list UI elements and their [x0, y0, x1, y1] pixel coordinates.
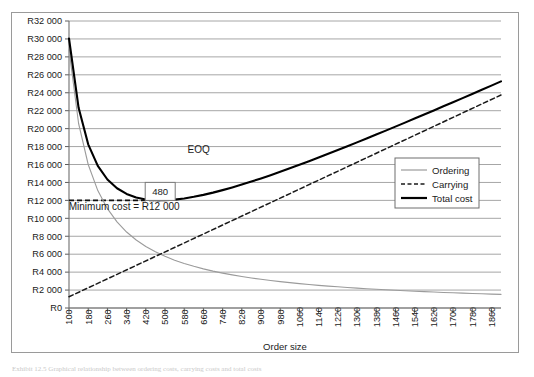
x-tick-label: 1300: [352, 307, 362, 327]
legend-label: Carrying: [432, 179, 468, 190]
x-tick-label: 340: [122, 309, 132, 324]
x-tick-label: 1700: [448, 307, 458, 327]
x-tick-label: 1060: [295, 307, 305, 327]
chart-canvas: R0R2 000R4 000R6 000R8 000R10 000R12 000…: [0, 0, 534, 377]
x-tick-label: 900: [256, 309, 266, 324]
y-tick-label: R16 000: [27, 160, 62, 170]
x-tick-label: 1780: [468, 307, 478, 327]
x-tick-label: 1220: [333, 307, 343, 327]
y-tick-label: R12 000: [27, 196, 62, 206]
y-tick-label: R4 000: [32, 267, 62, 277]
y-tick-label: R20 000: [27, 124, 62, 134]
y-tick-label: R6 000: [32, 249, 62, 259]
eoq-cost-figure: R0R2 000R4 000R6 000R8 000R10 000R12 000…: [0, 0, 534, 377]
minimum-cost-label: Minimum cost = R12 000: [69, 201, 180, 212]
x-tick-label: 1860: [487, 307, 497, 327]
x-tick-label: 500: [160, 309, 170, 324]
x-tick-label: 1140: [314, 307, 324, 327]
x-tick-labels-group: 1001802603404205005806607408209009801060…: [64, 307, 496, 327]
y-tick-label: R0: [50, 303, 62, 313]
y-tick-label: R24 000: [27, 88, 62, 98]
x-tick-label: 1540: [410, 307, 420, 327]
y-tick-label: R32 000: [27, 16, 62, 26]
chart-legend: OrderingCarryingTotal cost: [395, 158, 479, 208]
annotations-group: EOQ480Minimum cost = R12 000: [69, 144, 210, 212]
y-tick-label: R2 000: [32, 285, 62, 295]
x-tick-label: 100: [64, 309, 74, 324]
figure-caption: Exhibit 12.5 Graphical relationship betw…: [12, 364, 522, 374]
x-axis-title: Order size: [263, 341, 307, 352]
y-tick-label: R18 000: [27, 142, 62, 152]
x-tick-label: 260: [103, 309, 113, 324]
y-tick-labels-group: R0R2 000R4 000R6 000R8 000R10 000R12 000…: [27, 16, 62, 313]
y-tick-label: R14 000: [27, 178, 62, 188]
x-tick-label: 1620: [429, 307, 439, 327]
x-axis-title-group: Order size: [263, 341, 307, 352]
x-tick-label: 1460: [391, 307, 401, 327]
x-tick-label: 820: [237, 309, 247, 324]
y-tick-label: R30 000: [27, 34, 62, 44]
eoq-label: EOQ: [187, 144, 209, 155]
eoq-value-text: 480: [152, 186, 168, 197]
legend-label: Ordering: [432, 165, 469, 176]
y-tick-marks-group: [65, 21, 69, 308]
x-tick-label: 660: [199, 309, 209, 324]
y-tick-label: R10 000: [27, 214, 62, 224]
x-tick-label: 1380: [372, 307, 382, 327]
y-tick-label: R22 000: [27, 106, 62, 116]
x-tick-label: 180: [84, 309, 94, 324]
legend-label: Total cost: [432, 193, 473, 204]
y-tick-label: R26 000: [27, 70, 62, 80]
x-tick-label: 420: [141, 309, 151, 324]
x-tick-label: 980: [276, 309, 286, 324]
y-tick-label: R28 000: [27, 52, 62, 62]
x-tick-label: 580: [180, 309, 190, 324]
x-tick-label: 740: [218, 309, 228, 324]
y-tick-label: R8 000: [32, 232, 62, 242]
